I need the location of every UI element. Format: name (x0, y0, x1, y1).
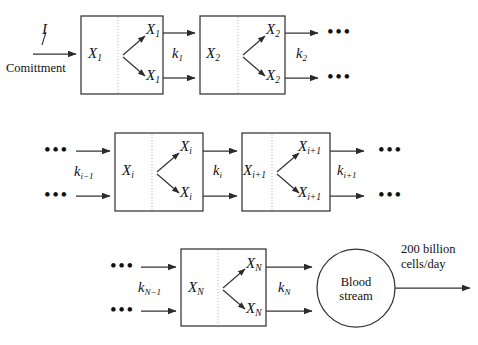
box-x2-left-subscript: 2 (215, 53, 220, 63)
cell-differentiation-flow-diagram: I Comittment X1 X1 X1 X2 X2 X2 k1 k2 •••… (0, 0, 478, 345)
box-x2-left-symbol: X (206, 45, 215, 61)
box-x1-out-top-subscript: 1 (155, 29, 160, 39)
ellipsis-row2-left-top: ••• (44, 140, 69, 160)
box-xn-left-subscript: N (197, 287, 203, 297)
output-label-line2: cells/day (401, 258, 445, 271)
box-xi-left-symbol: X (122, 162, 131, 178)
box-x2-out-bottom-label: X2 (266, 68, 280, 86)
box-x2-out-top-symbol: X (266, 21, 275, 37)
box-x2-out-bottom-symbol: X (266, 67, 275, 83)
box-xi-out-bottom-label: Xi (180, 185, 192, 203)
box-xi-out-top-symbol: X (180, 138, 189, 154)
rate-ki-1-subscript: i−1 (80, 171, 93, 181)
rate-label-ki-plus-1: ki+1 (337, 163, 357, 180)
box-xi1-left-label: Xi+1 (243, 163, 266, 181)
ellipsis-row1-bottom: ••• (327, 67, 352, 87)
box-x1-out-bottom-subscript: 1 (155, 75, 160, 85)
box-x2-out-top-label: X2 (266, 22, 280, 40)
box-xi1-out-bottom-symbol: X (298, 184, 307, 200)
rate-label-kn-minus-1: kN−1 (138, 280, 161, 297)
rate-ki1-subscript: i+1 (343, 170, 356, 180)
box-xi1-out-top-subscript: i+1 (307, 146, 321, 156)
blood-stream-label-line1: Blood (331, 276, 381, 289)
rate-label-k1: k1 (172, 46, 183, 63)
rate-k1-subscript: 1 (178, 53, 183, 63)
rate-label-ki-minus-1: ki−1 (74, 164, 94, 181)
rate-kn-subscript: N (284, 287, 290, 297)
box-xi1-out-bottom-subscript: i+1 (307, 192, 321, 202)
box-xi-out-top-label: Xi (180, 139, 192, 157)
box-xn-out-bottom-symbol: X (246, 300, 255, 316)
box-xi1-left-subscript: i+1 (252, 170, 266, 180)
box-xi1-out-top-label: Xi+1 (298, 139, 321, 157)
box-x2-out-top-subscript: 2 (275, 29, 280, 39)
ellipsis-row3-left-top: ••• (110, 256, 135, 276)
box-xn-left-symbol: X (188, 279, 197, 295)
box-xi-out-top-subscript: i (189, 146, 192, 156)
box-x1-left-subscript: 1 (97, 53, 102, 63)
rate-kn-1-subscript: N−1 (144, 287, 161, 297)
diagram-vector-layer (0, 0, 478, 345)
box-xn-out-bottom-subscript: N (255, 308, 261, 318)
box-xn-out-top-label: XN (246, 256, 262, 274)
blood-stream-label-line2: stream (331, 290, 381, 303)
box-xi-left-label: Xi (122, 163, 134, 181)
box-xi1-out-top-symbol: X (298, 138, 307, 154)
ellipsis-row3-left-bottom: ••• (110, 300, 135, 320)
box-x2-left-label: X2 (206, 46, 220, 64)
box-x1-out-bottom-label: X1 (146, 68, 160, 86)
box-xi-left-subscript: i (131, 170, 134, 180)
box-xi-out-bottom-symbol: X (180, 184, 189, 200)
box-xi1-out-bottom-label: Xi+1 (298, 185, 321, 203)
box-xn-out-top-subscript: N (255, 263, 261, 273)
box-xi1-left-symbol: X (243, 162, 252, 178)
box-x1-left-symbol: X (88, 45, 97, 61)
box-x1-out-top-symbol: X (146, 21, 155, 37)
rate-k2-subscript: 2 (302, 53, 307, 63)
input-rate-label-I: I (42, 22, 47, 38)
rate-label-k2: k2 (296, 46, 307, 63)
box-xi-out-bottom-subscript: i (189, 192, 192, 202)
box-x1-out-top-label: X1 (146, 22, 160, 40)
box-x2-out-bottom-subscript: 2 (275, 75, 280, 85)
ellipsis-row1-top: ••• (327, 22, 352, 42)
rate-ki-subscript: i (219, 170, 222, 180)
box-x1-left-label: X1 (88, 46, 102, 64)
box-xn-out-bottom-label: XN (246, 301, 262, 319)
ellipsis-row2-left-bottom: ••• (44, 185, 69, 205)
rate-label-kn: kN (278, 280, 290, 297)
ellipsis-row2-right-bottom: ••• (378, 185, 403, 205)
box-xn-left-label: XN (188, 280, 204, 298)
box-xn-out-top-symbol: X (246, 255, 255, 271)
output-label-line1: 200 billion (401, 243, 456, 256)
ellipsis-row2-right-top: ••• (378, 140, 403, 160)
input-caption-commitment: Comittment (6, 62, 66, 75)
box-x1-out-bottom-symbol: X (146, 67, 155, 83)
rate-label-ki: ki (213, 163, 222, 180)
